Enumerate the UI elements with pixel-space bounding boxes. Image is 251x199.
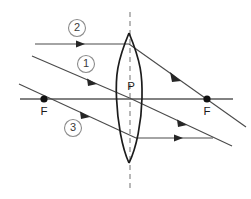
focal-point-left-label: F [40, 105, 47, 117]
ray-3-label-text: 3 [70, 121, 76, 133]
diagram-canvas: 2 1 3 F F P [0, 0, 251, 199]
ray-1-label-text: 1 [83, 57, 89, 69]
ray-2-refracted-line [129, 44, 246, 127]
lens-ray-diagram: 2 1 3 F F P [0, 0, 251, 199]
ray-2-refracted-arrow-icon [170, 72, 181, 82]
lens-left-surface [116, 33, 129, 163]
lens-center-label: P [127, 80, 135, 92]
focal-point-right-label: F [203, 105, 210, 117]
ray-2-incident-arrow-icon [76, 41, 85, 48]
focal-point-left-dot [40, 95, 47, 102]
ray-1-continued-arrow-icon [177, 120, 187, 128]
ray-2-label-text: 2 [74, 21, 80, 33]
ray-3-incident-arrow-icon [80, 112, 90, 120]
ray-3-refracted-arrow-icon [174, 135, 183, 142]
ray-1-incident-arrow-icon [87, 79, 97, 87]
ray-3-incident-line [19, 84, 136, 138]
ray-1-incident-line [32, 56, 130, 98]
focal-point-right-dot [203, 95, 210, 102]
